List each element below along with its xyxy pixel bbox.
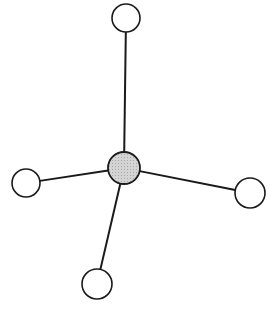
bond-bottom xyxy=(100,184,120,270)
bonds xyxy=(40,32,235,269)
outer-atom-bottom xyxy=(82,269,112,299)
outer-atom-right xyxy=(235,178,265,208)
central-atom-group xyxy=(108,152,140,184)
tetrahedral-molecule-diagram xyxy=(0,0,273,309)
bond-left xyxy=(40,170,108,180)
central-atom xyxy=(108,152,140,184)
bond-top xyxy=(124,32,126,152)
outer-atom-top xyxy=(112,4,140,32)
bond-right xyxy=(140,171,236,190)
outer-atoms xyxy=(12,4,265,299)
outer-atom-left xyxy=(12,169,40,197)
